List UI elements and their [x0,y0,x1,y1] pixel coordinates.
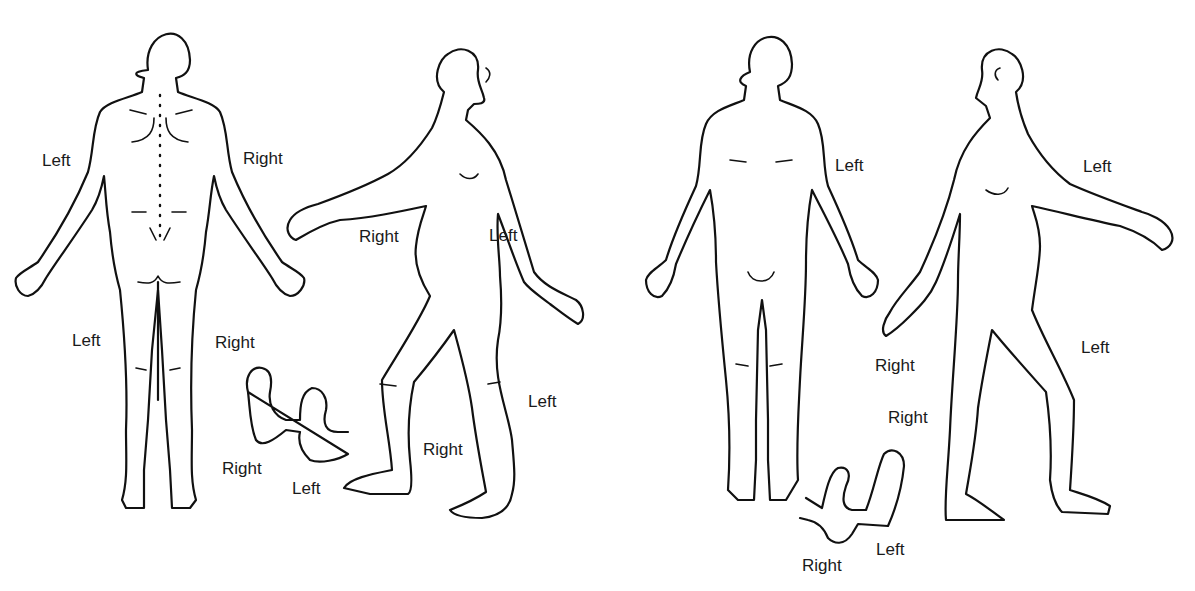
label: Right [215,334,255,351]
label: Left [489,227,517,244]
label: Left [72,332,100,349]
left-lateral-figure [883,49,1172,520]
body-outlines [0,0,1195,591]
label: Left [1081,339,1109,356]
label: Right [359,228,399,245]
label: Right [875,357,915,374]
soles-figure-1 [247,368,348,462]
label: Left [292,480,320,497]
label: Right [888,409,928,426]
soles-figure-2 [800,450,904,542]
label: Right [802,557,842,574]
label: Left [835,157,863,174]
label: Right [243,150,283,167]
anterior-figure [646,37,878,500]
label: Left [42,152,70,169]
label: Left [1083,158,1111,175]
body-diagram: Left Right Right Left Left Right Right L… [0,0,1195,591]
label: Right [423,441,463,458]
label: Left [876,541,904,558]
label: Right [222,460,262,477]
posterior-figure [16,34,305,508]
label: Left [528,393,556,410]
